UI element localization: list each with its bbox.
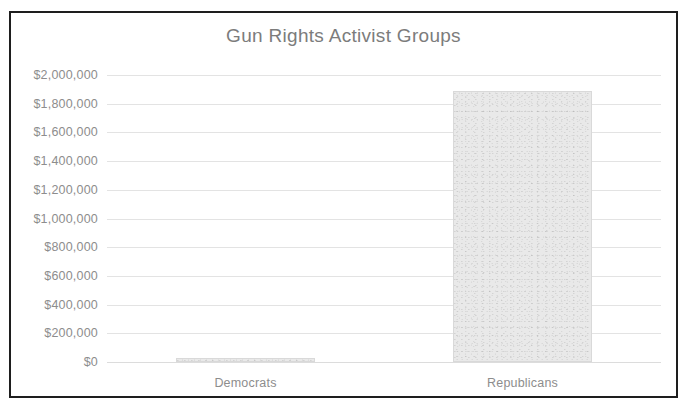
x-axis-tick-label-republicans: Republicans (487, 376, 558, 390)
y-axis-tick-label: $800,000 (44, 240, 98, 254)
y-axis-tick-label: $600,000 (44, 269, 98, 283)
y-axis-tick-label: $1,200,000 (33, 183, 98, 197)
y-axis-tick-label: $200,000 (44, 326, 98, 340)
y-axis-tick-label: $1,600,000 (33, 125, 98, 139)
clipped-caption-text (0, 400, 692, 411)
y-axis-tick-label: $1,000,000 (33, 212, 98, 226)
bar-republicans[interactable] (453, 91, 592, 362)
y-axis-tick-label: $1,400,000 (33, 154, 98, 168)
plot-area: $0$200,000$400,000$600,000$800,000$1,000… (107, 75, 661, 362)
bar-chart: Gun Rights Activist Groups $0$200,000$40… (11, 13, 676, 396)
y-axis-tick-label: $2,000,000 (33, 68, 98, 82)
scanned-page: Gun Rights Activist Groups $0$200,000$40… (0, 0, 692, 413)
gridline (107, 362, 661, 363)
chart-title: Gun Rights Activist Groups (11, 25, 676, 47)
bar-democrats[interactable] (176, 358, 315, 362)
y-axis-tick-label: $0 (84, 355, 98, 369)
x-axis-tick-label-democrats: Democrats (214, 376, 276, 390)
y-axis-tick-label: $1,800,000 (33, 97, 98, 111)
gridline (107, 75, 661, 76)
y-axis-tick-label: $400,000 (44, 298, 98, 312)
chart-frame-border: Gun Rights Activist Groups $0$200,000$40… (9, 11, 678, 398)
